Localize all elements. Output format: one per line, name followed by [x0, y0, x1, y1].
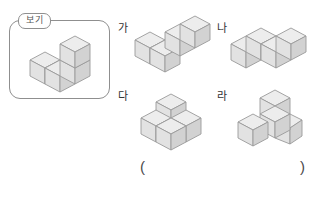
option-shape-na[interactable]	[229, 22, 307, 78]
option-label-na: 나	[217, 22, 227, 34]
option-label-ra: 라	[217, 90, 227, 102]
answer-blank[interactable]: ( )	[140, 157, 305, 179]
option-shape-da[interactable]	[140, 92, 206, 150]
example-cube-shape	[26, 40, 106, 92]
option-label-ga: 가	[118, 22, 128, 34]
paren-open-icon: (	[140, 157, 145, 177]
paren-close-icon: )	[300, 157, 305, 177]
option-shape-ra[interactable]	[234, 92, 302, 150]
option-shape-ga[interactable]	[131, 22, 207, 78]
option-label-da: 다	[118, 90, 128, 102]
worksheet-canvas: 보기	[0, 0, 317, 200]
example-tab-label: 보기	[18, 13, 51, 29]
